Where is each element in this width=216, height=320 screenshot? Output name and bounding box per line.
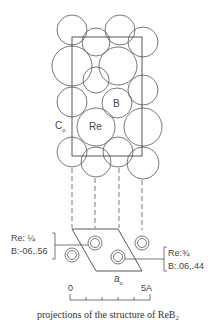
basal-cell bbox=[72, 229, 142, 271]
left-annotation-re: Re: ¼ bbox=[11, 234, 35, 243]
right-annotation-b: B:.06,.44 bbox=[168, 262, 204, 271]
projected-atoms bbox=[65, 236, 149, 264]
left-bracket bbox=[52, 233, 88, 259]
b-label: B bbox=[113, 99, 120, 109]
scale-end-label: 5A bbox=[141, 284, 152, 293]
atom-packing bbox=[52, 15, 162, 179]
c0-label: Co bbox=[55, 121, 66, 133]
right-annotation-re: Re:¾ bbox=[168, 249, 190, 258]
scale-bar bbox=[70, 294, 150, 300]
figure-caption: projections of the structure of ReB₂ bbox=[0, 309, 216, 320]
a0-label: ao bbox=[114, 274, 123, 286]
projection-lines bbox=[72, 168, 142, 230]
re-label: Re bbox=[89, 122, 102, 132]
unit-cell bbox=[72, 37, 142, 156]
scale-start-label: 0 bbox=[68, 284, 73, 293]
right-bracket bbox=[125, 247, 167, 271]
left-annotation-b: B:-06,.56 bbox=[11, 247, 48, 256]
